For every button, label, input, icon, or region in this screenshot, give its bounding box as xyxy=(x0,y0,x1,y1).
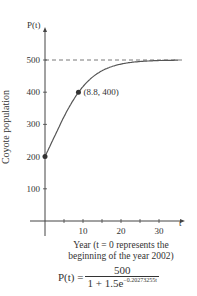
y-tick-label: 200 xyxy=(27,152,41,162)
equation-denominator: 1 + 1.5e−0.20273255t xyxy=(87,277,156,289)
y-tick-label: 500 xyxy=(27,55,41,65)
y-axis-symbol: P(t) xyxy=(27,20,41,30)
x-tick-label: 30 xyxy=(155,226,164,236)
equation: P(t) = 500 1 + 1.5e−0.20273255t xyxy=(58,264,157,289)
y-tick-label: 400 xyxy=(27,87,41,97)
equation-numerator: 500 xyxy=(85,264,158,277)
y-tick-label: 300 xyxy=(27,119,41,129)
equation-lhs: P(t) = xyxy=(58,271,83,283)
x-axis-label: Year (t = 0 represents the beginning of … xyxy=(56,240,186,262)
x-tick-label: 20 xyxy=(117,226,126,236)
y-axis-label: Coyote population xyxy=(0,90,11,164)
x-tick-label: 10 xyxy=(79,226,88,236)
y-tick-label: 100 xyxy=(27,184,41,194)
x-axis-symbol: t xyxy=(179,218,182,228)
point-label: (8.8, 400) xyxy=(83,87,118,97)
